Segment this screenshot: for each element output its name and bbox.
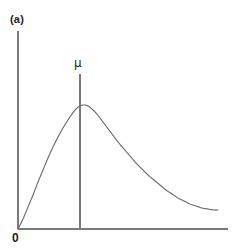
density-curve bbox=[18, 105, 218, 229]
mean-symbol-label: μ bbox=[74, 56, 82, 70]
panel-label: (a) bbox=[10, 13, 24, 25]
origin-label: 0 bbox=[12, 231, 19, 245]
distribution-plot bbox=[0, 0, 240, 249]
figure-container: (a) μ 0 bbox=[0, 0, 240, 249]
